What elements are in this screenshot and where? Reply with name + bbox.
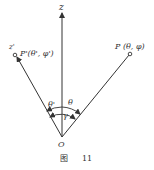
z-axis-label: z bbox=[58, 2, 64, 12]
z-prime-axis-label: z' bbox=[8, 43, 15, 51]
z-prime-axis bbox=[17, 57, 62, 137]
point-P bbox=[128, 52, 132, 56]
point-P-prime-label: P'(θ', φ') bbox=[19, 49, 54, 58]
angle-gamma-label: γ bbox=[63, 111, 68, 120]
diagram-canvas: z P (θ, φ) z' P'(θ', φ') θ' θ γ O 图 11 bbox=[0, 0, 154, 170]
angle-theta-label: θ bbox=[68, 98, 73, 107]
point-P-prime bbox=[13, 53, 17, 57]
line-OP bbox=[62, 55, 129, 137]
caption-prefix: 图 bbox=[60, 154, 68, 163]
angle-theta-prime-label: θ' bbox=[48, 100, 55, 109]
caption-number: 11 bbox=[82, 154, 92, 163]
origin-label: O bbox=[58, 140, 65, 149]
point-P-label: P (θ, φ) bbox=[114, 42, 145, 51]
